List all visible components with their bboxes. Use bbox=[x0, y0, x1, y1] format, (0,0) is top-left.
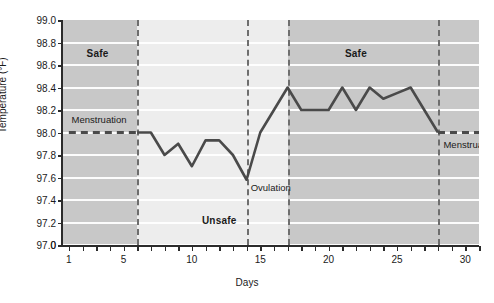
x-tick-label-10: 10 bbox=[186, 254, 197, 265]
x-tick-label-20: 20 bbox=[323, 254, 334, 265]
y-tick-label-99-0: 99.0 bbox=[37, 15, 56, 26]
x-tick-mark-day-16 bbox=[274, 246, 276, 251]
x-tick-mark-day-25 bbox=[397, 246, 399, 251]
x-tick-label-25: 25 bbox=[391, 254, 402, 265]
y-tick-mark-97-4 bbox=[58, 200, 62, 202]
x-tick-label-30: 30 bbox=[460, 254, 471, 265]
y-tick-mark-97-6 bbox=[58, 178, 62, 180]
plot-area: SafeUnsafeSafeMenstruationOvulationMenst… bbox=[62, 20, 479, 245]
y-tick-mark-98-4 bbox=[58, 88, 62, 90]
x-tick-mark-day-10 bbox=[192, 246, 194, 251]
x-tick-mark-day-27 bbox=[424, 246, 426, 251]
x-axis-title: Days bbox=[0, 277, 494, 288]
x-tick-mark-day-9 bbox=[178, 246, 180, 251]
y-tick-label-98-8: 98.8 bbox=[37, 37, 56, 48]
x-tick-label-15: 15 bbox=[255, 254, 266, 265]
y-tick-mark-97-0 bbox=[58, 245, 62, 247]
x-tick-mark-day-23 bbox=[370, 246, 372, 251]
x-tick-mark-day-4 bbox=[110, 246, 112, 251]
y-tick-mark-98-6 bbox=[58, 65, 62, 67]
x-tick-mark-day-28 bbox=[438, 246, 440, 251]
x-tick-mark-day-5 bbox=[124, 246, 126, 251]
x-tick-mark-day-29 bbox=[452, 246, 454, 251]
x-tick-mark-day-18 bbox=[301, 246, 303, 251]
x-tick-mark-day-12 bbox=[219, 246, 221, 251]
y-tick-label-98-0: 98.0 bbox=[37, 127, 56, 138]
band-label-safe-left: Safe bbox=[87, 47, 109, 58]
x-tick-mark-day-8 bbox=[165, 246, 167, 251]
series-layer bbox=[62, 20, 479, 245]
x-tick-mark-day-11 bbox=[206, 246, 208, 251]
y-tick-label-97-6: 97.6 bbox=[37, 172, 56, 183]
x-tick-mark-day-21 bbox=[342, 246, 344, 251]
x-tick-mark-day-1 bbox=[69, 246, 71, 251]
x-tick-mark-day-7 bbox=[151, 246, 153, 251]
menstruation-end-label: Menstruation bbox=[443, 138, 479, 149]
y-tick-label-98-6: 98.6 bbox=[37, 60, 56, 71]
x-tick-mark-day-19 bbox=[315, 246, 317, 251]
menstruation-start-label: Menstruation bbox=[72, 114, 127, 125]
y-tick-mark-97-8 bbox=[58, 155, 62, 157]
x-tick-mark-day-20 bbox=[329, 246, 331, 251]
y-tick-mark-97-2 bbox=[58, 223, 62, 225]
x-tick-mark-day-6 bbox=[137, 246, 139, 251]
y-axis-title: Temperature (°F) bbox=[0, 57, 8, 133]
x-tick-mark-day-15 bbox=[260, 246, 262, 251]
x-tick-mark-day-22 bbox=[356, 246, 358, 251]
y-axis-break-label: 0 bbox=[50, 240, 56, 251]
x-tick-mark-day-13 bbox=[233, 246, 235, 251]
x-tick-mark-day-17 bbox=[288, 246, 290, 251]
series-line-cycle bbox=[137, 88, 438, 180]
y-tick-mark-98-2 bbox=[58, 110, 62, 112]
x-tick-label-1: 1 bbox=[66, 254, 72, 265]
y-tick-mark-98-8 bbox=[58, 43, 62, 45]
x-tick-mark-day-14 bbox=[247, 246, 249, 251]
x-tick-mark-day-24 bbox=[383, 246, 385, 251]
x-tick-mark-day-30 bbox=[465, 246, 467, 251]
y-tick-label-97-8: 97.8 bbox=[37, 150, 56, 161]
ovulation-label: Ovulation bbox=[251, 181, 291, 192]
y-tick-mark-98-0 bbox=[58, 133, 62, 135]
band-label-safe-right: Safe bbox=[345, 47, 367, 58]
x-tick-mark-day-31 bbox=[479, 246, 481, 251]
band-label-unsafe: Unsafe bbox=[202, 215, 237, 226]
x-tick-mark-day-2 bbox=[83, 246, 85, 251]
y-tick-mark-99-0 bbox=[58, 20, 62, 22]
x-tick-label-5: 5 bbox=[121, 254, 127, 265]
y-tick-label-97-2: 97.2 bbox=[37, 217, 56, 228]
basal-body-temperature-chart: SafeUnsafeSafeMenstruationOvulationMenst… bbox=[0, 0, 494, 303]
x-tick-mark-day-26 bbox=[411, 246, 413, 251]
x-tick-mark-day-3 bbox=[96, 246, 98, 251]
y-tick-label-97-4: 97.4 bbox=[37, 195, 56, 206]
y-tick-label-98-2: 98.2 bbox=[37, 105, 56, 116]
y-tick-label-98-4: 98.4 bbox=[37, 82, 56, 93]
